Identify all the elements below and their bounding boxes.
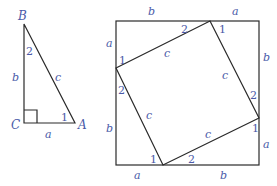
vertex-c-label: C [11,118,20,132]
bottom-angle-2-label: 2 [188,153,195,166]
pythagorean-diagram: B C A b c a 2 1 b a a b b a a b c c c c … [0,0,277,186]
right-angle-2-label: 2 [250,89,257,102]
vertex-a-label: A [77,118,87,132]
right-triangle: B C A b c a 2 1 [11,9,87,141]
vertex-b-label: B [17,9,27,23]
right-angle-marker [24,110,37,123]
triangle-outline [24,24,75,123]
inner-square [116,21,259,165]
side-a-label: a [45,128,52,141]
side-b-label: b [12,71,19,84]
outer-left-b-label: b [106,122,113,135]
inner-left-c-label: c [146,109,152,122]
inner-top-c-label: c [164,47,170,60]
bottom-angle-1-label: 1 [150,153,157,166]
angle-2-label: 2 [26,45,33,58]
left-angle-1-label: 1 [119,54,126,67]
inner-right-c-label: c [222,69,228,82]
outer-top-b-label: b [148,5,155,18]
outer-left-a-label: a [106,37,113,50]
outer-top-a-label: a [232,5,239,18]
outer-bottom-a-label: a [134,169,141,182]
top-angle-1-label: 1 [219,23,226,36]
outer-bottom-b-label: b [220,169,227,182]
outer-square [116,21,259,165]
left-angle-2-label: 2 [118,84,125,97]
top-angle-2-label: 2 [181,23,188,36]
right-angle-1-label: 1 [252,122,259,135]
angle-1-label: 1 [61,111,68,124]
inner-bottom-c-label: c [205,128,211,141]
outer-right-b-label: b [263,51,270,64]
outer-right-a-label: a [263,138,270,151]
side-c-label: c [55,71,61,84]
square-construction: b a a b b a a b c c c c 2 1 1 2 2 1 1 2 [106,5,270,182]
